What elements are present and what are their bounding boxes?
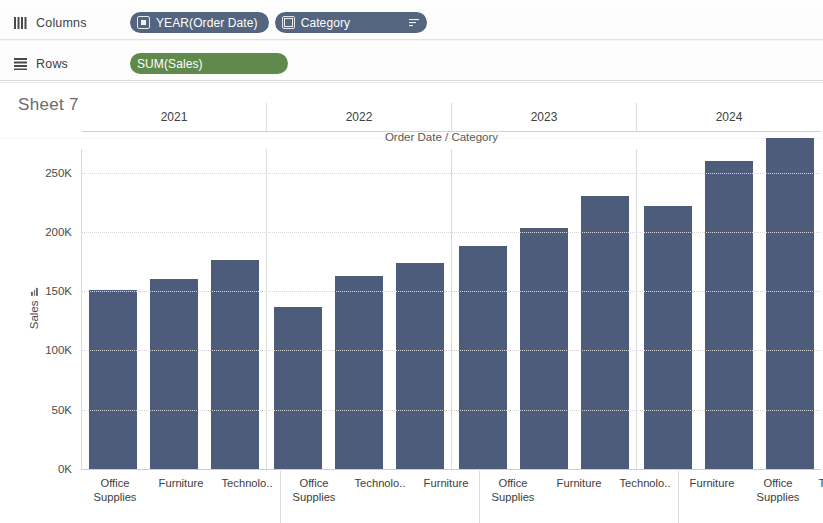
y-axis-tick-label: 0K [58,463,72,475]
category-label-pane-2022: Office SuppliesTechnolo..Furniture [281,471,480,523]
category-axis-label[interactable]: Technolo.. [214,476,280,523]
bar-mark[interactable] [581,196,629,469]
year-header-cell[interactable]: 2024 [637,103,821,131]
category-axis-label[interactable]: Technolo.. [612,476,678,523]
worksheet-canvas: Sheet 7 Order Date / Category 2021202220… [0,82,823,523]
columns-shelf[interactable]: Columns YEAR(Order Date) Category [0,6,823,40]
columns-icon [14,17,27,29]
category-label-pane-2023: Office SuppliesFurnitureTechnolo.. [480,471,679,523]
hierarchy-field-icon [282,16,295,29]
category-header-band: Office SuppliesFurnitureTechnolo..Office… [82,471,821,523]
chart-plot-area: 2021202220232024 Sales 0K50K100K150K200K… [0,149,823,523]
bar-mark[interactable] [766,138,814,469]
bar-mark[interactable] [274,307,322,469]
year-header-divider [82,131,821,132]
pill-year-order-date[interactable]: YEAR(Order Date) [130,12,269,33]
shelf-area: Columns YEAR(Order Date) Category [0,0,823,82]
pill-year-order-date-label: YEAR(Order Date) [156,16,258,30]
year-header-cell[interactable]: 2021 [82,103,267,131]
category-axis-label[interactable]: Office Supplies [281,476,347,523]
category-axis-label[interactable]: Office Supplies [82,476,148,523]
bar-chart-icon [31,288,38,296]
bar-mark[interactable] [705,161,753,469]
pill-sum-sales[interactable]: SUM(Sales) [130,53,288,74]
bar-mark[interactable] [459,246,507,469]
pill-category[interactable]: Category [275,12,427,33]
bar-mark[interactable] [335,276,383,469]
category-axis-label[interactable]: Office Supplies [745,476,811,523]
rows-shelf-label: Rows [0,57,130,71]
chart-pane-2021 [82,149,267,469]
y-axis-title: Sales [28,289,40,330]
gridline [82,173,821,174]
category-axis-label[interactable]: Technolo.. [347,476,413,523]
bar-mark[interactable] [520,228,568,469]
category-label-pane-2024: FurnitureOffice SuppliesTechnolo.. [679,471,823,523]
y-axis-title-label: Sales [28,301,40,330]
page-title: Sheet 7 [18,95,79,115]
category-axis-label[interactable]: Furniture [546,476,612,523]
category-axis-label[interactable]: Furniture [148,476,214,523]
y-axis-tick-label: 100K [45,344,72,356]
gridline [82,291,821,292]
bar-mark[interactable] [150,279,198,469]
date-field-icon [137,16,150,29]
chart-pane-2023 [452,149,637,469]
y-axis-tick-label: 50K [52,404,72,416]
category-label-pane-2021: Office SuppliesFurnitureTechnolo.. [82,471,281,523]
chart-panes [82,149,821,469]
bar-mark[interactable] [89,290,137,469]
rows-icon [14,58,27,70]
year-header-band: 2021202220232024 [82,103,821,131]
bar-mark[interactable] [396,263,444,469]
category-axis-label[interactable]: Office Supplies [480,476,546,523]
year-header-cell[interactable]: 2023 [452,103,637,131]
category-axis-label[interactable]: Furniture [413,476,479,523]
x-axis-line [81,469,821,470]
year-header-cell[interactable]: 2022 [267,103,452,131]
gridline [82,232,821,233]
columns-shelf-label: Columns [0,16,130,30]
pill-category-label: Category [301,16,351,30]
tableau-worksheet-window: Columns YEAR(Order Date) Category [0,0,823,523]
y-axis-tick-label: 250K [45,167,72,179]
y-axis-tick-label: 200K [45,226,72,238]
column-field-title: Order Date / Category [0,131,823,143]
pill-sum-sales-label: SUM(Sales) [137,57,203,71]
rows-drop-zone[interactable]: SUM(Sales) [130,47,823,80]
sort-descending-icon[interactable] [409,19,419,27]
gridline [82,350,821,351]
bar-mark[interactable] [644,206,692,469]
gridline [82,410,821,411]
columns-shelf-text: Columns [36,16,87,30]
columns-drop-zone[interactable]: YEAR(Order Date) Category [130,6,823,39]
chart-pane-2024 [637,149,821,469]
category-axis-label[interactable]: Furniture [679,476,745,523]
chart-pane-2022 [267,149,452,469]
rows-shelf[interactable]: Rows SUM(Sales) [0,47,823,81]
category-axis-label[interactable]: Technolo.. [811,476,823,523]
rows-shelf-text: Rows [36,57,68,71]
y-axis-tick-label: 150K [45,285,72,297]
y-axis: Sales 0K50K100K150K200K250K [0,149,82,469]
